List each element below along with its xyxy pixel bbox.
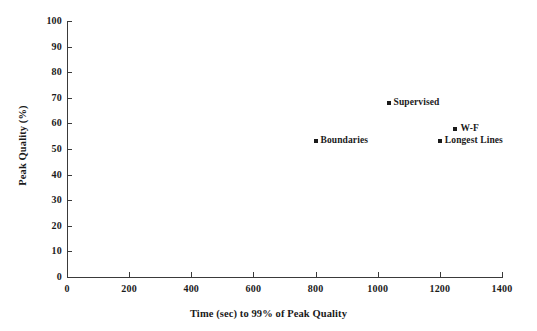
x-tick-label: 1200: [417, 283, 463, 294]
y-tick: [67, 226, 72, 227]
x-tick: [253, 272, 254, 277]
x-tick-label: 800: [293, 283, 339, 294]
y-tick: [67, 123, 72, 124]
x-tick: [502, 272, 503, 277]
x-tick-label: 200: [106, 283, 152, 294]
x-tick: [129, 272, 130, 277]
y-tick-label: 0: [22, 271, 62, 282]
y-tick-label: 20: [22, 220, 62, 231]
data-point-label: Supervised: [394, 97, 440, 107]
x-tick-label: 1000: [355, 283, 401, 294]
x-tick-label: 600: [230, 283, 276, 294]
y-tick-label: 60: [22, 117, 62, 128]
scatter-chart: 0200400600800100012001400 01020304050607…: [0, 0, 537, 331]
x-tick: [191, 272, 192, 277]
y-tick-label: 70: [22, 92, 62, 103]
y-tick: [67, 47, 72, 48]
y-tick: [67, 72, 72, 73]
x-axis-line: [67, 277, 503, 278]
x-tick: [316, 272, 317, 277]
data-point-label: Boundaries: [321, 135, 368, 145]
data-point[interactable]: [314, 139, 318, 143]
x-tick: [440, 272, 441, 277]
y-tick-label: 100: [22, 15, 62, 26]
y-tick: [67, 200, 72, 201]
y-tick-label: 30: [22, 194, 62, 205]
data-point[interactable]: [387, 101, 391, 105]
x-tick-label: 0: [44, 283, 90, 294]
y-tick: [67, 251, 72, 252]
y-tick-label: 50: [22, 143, 62, 154]
y-tick: [67, 98, 72, 99]
y-tick: [67, 175, 72, 176]
y-tick-label: 40: [22, 169, 62, 180]
data-point-label: W-F: [460, 123, 478, 133]
data-point[interactable]: [453, 127, 457, 131]
y-tick-label: 90: [22, 41, 62, 52]
y-axis-title: Peak Quality (%): [17, 66, 28, 226]
y-tick: [67, 277, 72, 278]
data-point-label: Longest Lines: [445, 135, 503, 145]
x-tick: [378, 272, 379, 277]
x-tick-label: 1400: [479, 283, 525, 294]
x-axis-title: Time (sec) to 99% of Peak Quality: [0, 308, 537, 319]
y-tick-label: 10: [22, 245, 62, 256]
y-tick-label: 80: [22, 66, 62, 77]
y-tick: [67, 149, 72, 150]
x-tick-label: 400: [168, 283, 214, 294]
y-tick: [67, 21, 72, 22]
data-point[interactable]: [438, 139, 442, 143]
